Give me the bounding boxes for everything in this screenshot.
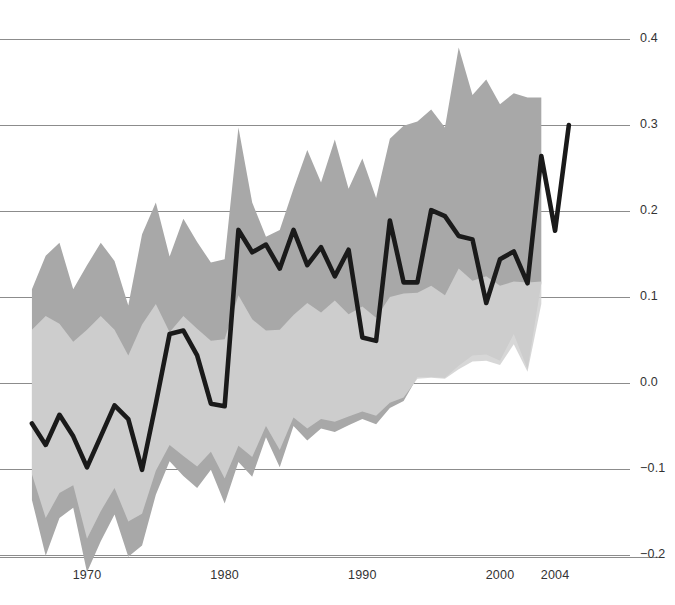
y-axis-tick-label: 0.4 [640, 31, 658, 45]
y-axis-tick-label: −0.2 [640, 547, 665, 561]
y-axis-tick-label: 0.2 [640, 203, 658, 217]
y-axis-tick-label: 0.1 [640, 289, 658, 303]
x-axis-tick-label: 2004 [541, 568, 570, 582]
y-axis-tick-label: −0.1 [640, 461, 665, 475]
chart-container: 0.40.30.20.10.0−0.1−0.2 1970198019902000… [0, 0, 675, 605]
x-axis-tick-label: 1980 [210, 568, 239, 582]
x-axis-tick-label: 1970 [73, 568, 102, 582]
y-axis-tick-label: 0.0 [640, 375, 658, 389]
x-axis-tick-label: 2000 [486, 568, 515, 582]
y-axis-tick-label: 0.3 [640, 117, 658, 131]
chart-plot-area [0, 0, 675, 605]
x-axis-tick-label: 1990 [348, 568, 377, 582]
